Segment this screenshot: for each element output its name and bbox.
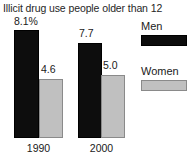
axis-tick-1990: 1990 [14,142,63,154]
bar-women-2000 [101,75,125,138]
plot-area: 8.1% 4.6 7.7 5.0 1990 2000 [0,0,135,159]
legend-entry-men: Men [141,20,189,46]
bar-label-women-1990: 4.6 [41,64,56,75]
axis-tick-2000: 2000 [78,142,125,154]
bar-label-women-2000: 5.0 [103,60,118,71]
bar-chart: Illicit drug use people older than 12 8.… [0,0,191,159]
legend-label-men: Men [141,20,189,32]
bar-men-2000 [78,43,102,138]
legend-swatch-men [141,35,187,46]
bar-men-1990 [14,30,39,138]
legend-entry-women: Women [141,65,189,91]
bar-label-men-1990: 8.1% [14,16,38,27]
legend-swatch-women [141,80,187,91]
bar-label-men-2000: 7.7 [79,28,94,39]
legend-label-women: Women [141,65,189,77]
bar-women-1990 [39,79,63,138]
